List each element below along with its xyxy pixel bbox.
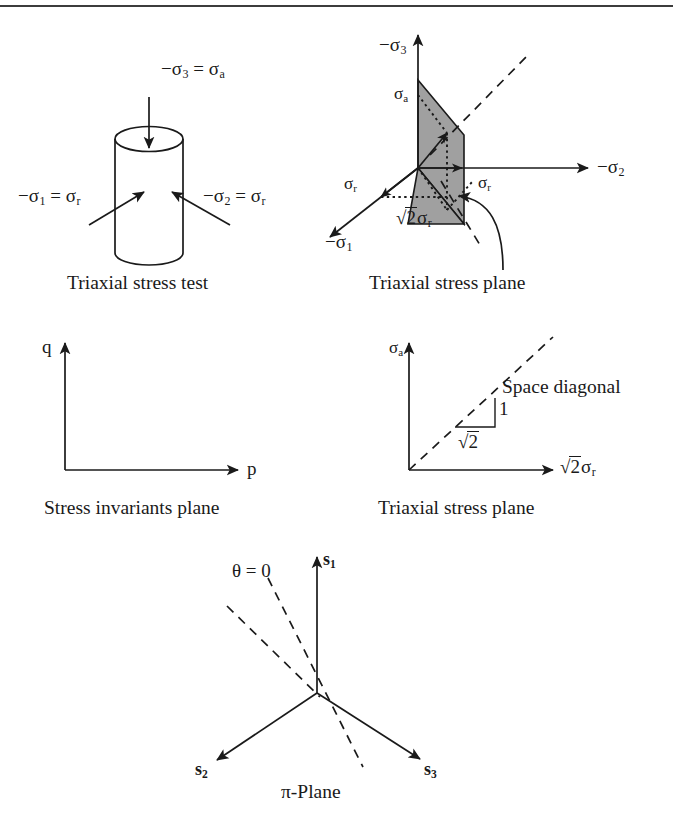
theta-zero-dashed-line <box>268 578 363 767</box>
label-axis-s1: s1 <box>323 550 336 571</box>
caption-triaxial-stress-test: Triaxial stress test <box>67 273 208 293</box>
caption-pi-plane: π-Plane <box>281 782 341 802</box>
label-axial-stress: −σ3 = σa <box>161 59 225 80</box>
radial-load-arrow-left <box>89 192 144 225</box>
label-axis-sigma1: −σ1 <box>325 232 352 253</box>
caption-triaxial-stress-plane-2d: Triaxial stress plane <box>378 498 534 518</box>
label-sigma-r-right: σr <box>478 174 491 193</box>
label-axis-sigma3: −σ3 <box>379 35 406 56</box>
label-sigma-a-3d: σa <box>394 85 408 104</box>
label-sqrt2-sigma-r-3d: √2σr <box>396 206 432 229</box>
label-slope-run: √2 <box>458 430 479 451</box>
panel-triaxial-stress-plane-2d <box>409 337 553 470</box>
caption-stress-invariants-plane: Stress invariants plane <box>44 498 219 518</box>
label-radial-stress-1: −σ1 = σr <box>18 186 80 207</box>
figure-vector-layer <box>0 0 673 818</box>
label-space-diagonal: Space diagonal <box>502 377 621 397</box>
panel-triaxial-stress-test <box>89 97 230 265</box>
sigma-r-arrow-left <box>381 168 418 197</box>
label-axis-q: q <box>42 337 52 356</box>
panel-triaxial-stress-plane-3d <box>330 35 588 270</box>
lode-angle-dashed-line <box>227 606 320 697</box>
axis-s2 <box>217 693 317 760</box>
label-theta-zero: θ = 0 <box>232 561 271 580</box>
panel-stress-invariants-plane <box>65 343 238 470</box>
plane-callout-curved-arrow <box>459 196 503 270</box>
label-sigma-r-left: σr <box>344 175 357 194</box>
figure-page: −σ3 = σa −σ1 = σr −σ2 = σr Triaxial stre… <box>0 0 673 818</box>
label-axis-sigma-a-2d: σa <box>389 339 403 358</box>
label-axis-s2: s2 <box>195 760 208 781</box>
panel-pi-plane <box>217 557 420 767</box>
cylinder-body <box>115 139 183 265</box>
label-axis-sqrt2-sigma-r-2d: √2σr <box>560 455 596 478</box>
space-diagonal-dashed <box>430 55 528 155</box>
caption-triaxial-stress-plane-3d: Triaxial stress plane <box>369 273 525 293</box>
label-axis-sigma2: −σ2 <box>597 157 624 178</box>
label-slope-rise: 1 <box>499 399 509 418</box>
label-radial-stress-2: −σ2 = σr <box>203 186 265 207</box>
space-diagonal-line <box>409 337 553 470</box>
label-axis-s3: s3 <box>424 760 437 781</box>
axis-s3 <box>317 693 420 759</box>
label-axis-p: p <box>247 459 257 478</box>
